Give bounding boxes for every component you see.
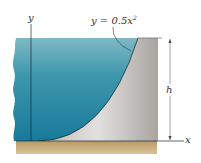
x-axis-label: x [185, 135, 191, 145]
ground-strip [16, 141, 157, 154]
equation-label: y = 0.5x2 [91, 15, 137, 26]
equation-exponent: 2 [133, 14, 137, 21]
dimension-arrow-bottom [169, 136, 172, 140]
height-label: h [166, 85, 172, 95]
dimension-arrow-top [169, 39, 172, 43]
equation-text: y = 0.5x [91, 15, 133, 26]
y-axis-label: y [28, 13, 34, 23]
